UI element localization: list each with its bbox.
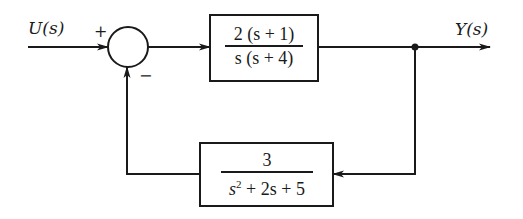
minus-sign: −: [139, 66, 152, 85]
feedback-den-rest: + 2s + 5: [242, 179, 305, 199]
plus-sign: +: [94, 22, 107, 41]
feedback-signal-arrow: [127, 67, 200, 174]
feedback-return-path: [333, 47, 415, 174]
feedback-numerator: 3: [259, 149, 276, 171]
output-label: Y(s): [455, 19, 488, 39]
forward-numerator: 2 (s + 1): [230, 23, 299, 45]
summing-junction: [108, 27, 148, 67]
forward-transfer-function: 2 (s + 1) s (s + 4): [225, 23, 303, 69]
feedback-transfer-function: 3 s2 + 2s + 5: [221, 149, 313, 200]
input-label: U(s): [28, 18, 64, 38]
feedback-denominator: s2 + 2s + 5: [225, 173, 309, 200]
forward-denominator: s (s + 4): [231, 47, 298, 69]
